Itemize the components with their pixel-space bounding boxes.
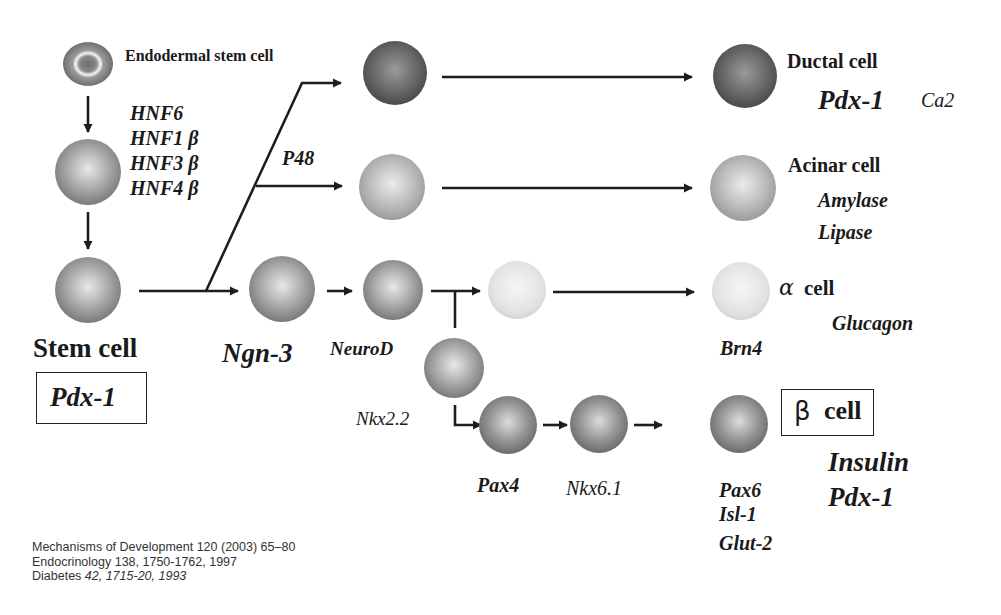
endodermal-stem-cell-icon <box>63 42 113 86</box>
stem-cell-label: Stem cell <box>33 335 137 362</box>
references: Mechanisms of Development 120 (2003) 65–… <box>32 540 295 584</box>
acinar-marker-amylase: Amylase <box>818 190 888 210</box>
glut2-label: Glut-2 <box>719 533 772 553</box>
nkx22-cell-icon <box>424 338 484 398</box>
acinar-marker-lipase: Lipase <box>818 222 872 242</box>
alpha-cell-label: cell <box>804 278 834 299</box>
ngn3-label: Ngn-3 <box>222 340 293 367</box>
pax4-cell-icon <box>479 396 537 454</box>
acinar-cell-label: Acinar cell <box>788 155 880 175</box>
beta-marker-insulin: Insulin <box>828 449 909 476</box>
alpha-progenitor-icon <box>488 261 546 319</box>
hnf-factor-label: HNF6 <box>130 103 183 123</box>
reference-3: Diabetes 42, 1715-20, 1993 <box>32 569 295 584</box>
nkx22-label: Nkx2.2 <box>356 409 409 428</box>
hnf-factor-label: HNF3 β <box>130 153 199 173</box>
reference-3-journal: Diabetes <box>32 569 85 583</box>
acinar-progenitor-icon <box>359 154 425 220</box>
arrow-nkx22-to-pax4 <box>455 405 481 425</box>
pax4-label: Pax4 <box>477 475 519 495</box>
hnf-factor-label: HNF1 β <box>130 128 199 148</box>
reference-1: Mechanisms of Development 120 (2003) 65–… <box>32 540 295 555</box>
neurod-cell-icon <box>363 260 423 320</box>
pax6-cell-icon <box>710 395 768 453</box>
hnf-cell-icon <box>55 139 121 205</box>
reference-2: Endocrinology 138, 1750-1762, 1997 <box>32 555 295 570</box>
ductal-cell-label: Ductal cell <box>787 51 878 71</box>
brn4-label: Brn4 <box>720 338 762 358</box>
p48-label: P48 <box>282 148 314 168</box>
beta-marker-pdx1: Pdx-1 <box>828 484 894 511</box>
reference-3-detail: 42, 1715-20, 1993 <box>85 569 186 583</box>
acinar-cell-icon <box>710 155 776 221</box>
ductal-marker-pdx1: Pdx-1 <box>818 87 884 114</box>
hnf-factor-label: HNF4 β <box>130 178 199 198</box>
stem-cell-marker-label: Pdx-1 <box>50 384 116 411</box>
ductal-marker-ca2: Ca2 <box>921 90 954 110</box>
pax6-label: Pax6 <box>719 480 761 500</box>
ductal-progenitor-icon <box>363 41 427 105</box>
neurod-label: NeuroD <box>330 339 393 358</box>
alpha-symbol: α <box>779 277 794 299</box>
alpha-cell-icon <box>712 262 770 320</box>
isl1-label: Isl-1 <box>719 504 757 524</box>
beta-symbol: β <box>794 398 811 424</box>
ngn3-cell-icon <box>249 256 315 322</box>
nkx61-cell-icon <box>570 395 628 453</box>
alpha-marker-glucagon: Glucagon <box>832 313 913 333</box>
nkx61-label: Nkx6.1 <box>566 478 622 498</box>
stem-cell-icon <box>55 257 121 323</box>
endodermal-stem-cell-label: Endodermal stem cell <box>125 48 273 64</box>
beta-cell-label: cell <box>824 398 862 424</box>
ductal-cell-icon <box>713 44 777 108</box>
